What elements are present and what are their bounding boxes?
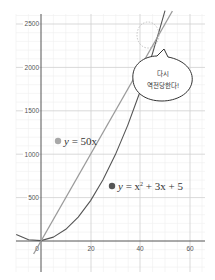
x-tick-labels: 0 20 40 60 — [35, 245, 194, 252]
legend-linear: y = 50x — [55, 135, 98, 147]
y-tick-500: 500 — [28, 194, 39, 201]
x-tick-60: 60 — [186, 245, 194, 252]
svg-text:y = 50x: y = 50x — [63, 135, 98, 147]
speech-bubble: 다시 역전당한다! — [133, 49, 192, 101]
bubble-line-1: 다시 — [157, 69, 169, 78]
y-tick-2000: 2000 — [25, 64, 40, 71]
legend-linear-marker — [55, 138, 61, 144]
y-tick-labels: 2500 2000 1500 1000 500 — [23, 20, 39, 202]
svg-text:y = x2 + 3x + 5: y = x2 + 3x + 5 — [117, 180, 184, 192]
y-tick-1000: 1000 — [25, 151, 40, 158]
legend-quadratic-marker — [109, 183, 115, 189]
graph-canvas: 2500 2000 1500 1000 500 0 20 40 60 다시 역전… — [0, 0, 215, 280]
axes — [16, 14, 205, 272]
x-tick-20: 20 — [87, 245, 95, 252]
legend-quadratic-eq-a: = x — [123, 180, 141, 192]
y-tick-2500: 2500 — [25, 20, 40, 27]
x-tick-40: 40 — [136, 245, 144, 252]
minor-grid — [16, 14, 205, 272]
legend-quadratic: y = x2 + 3x + 5 — [109, 180, 184, 192]
bubble-line-2: 역전당한다! — [147, 81, 180, 90]
legend-linear-eq: = 50x — [69, 135, 98, 147]
y-tick-1500: 1500 — [25, 107, 40, 114]
major-grid — [16, 14, 205, 272]
legend-quadratic-eq-b: + 3x + 5 — [143, 180, 183, 192]
